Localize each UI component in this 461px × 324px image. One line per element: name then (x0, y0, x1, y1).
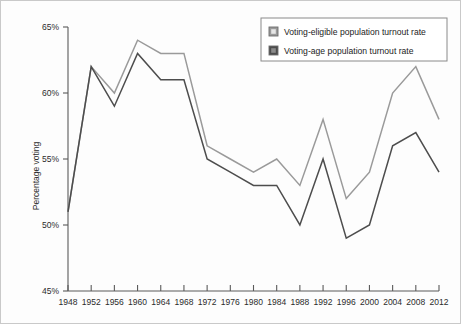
x-tick-label: 1972 (198, 297, 217, 307)
x-axis-tick-labels: 1948195219561960196419681972197619801984… (59, 297, 449, 307)
x-tick-label: 2000 (360, 297, 379, 307)
y-tick-label: 45% (42, 286, 59, 296)
x-tick-label: 1980 (244, 297, 263, 307)
x-tick-label: 1960 (128, 297, 147, 307)
legend-swatch-inner (271, 29, 276, 34)
x-tick-label: 2004 (383, 297, 402, 307)
x-tick-label: 1984 (267, 297, 286, 307)
x-tick-label: 1976 (221, 297, 240, 307)
x-tick-label: 1948 (59, 297, 78, 307)
y-tick-label: 65% (42, 22, 59, 32)
x-tick-label: 1996 (337, 297, 356, 307)
y-tick-label: 55% (42, 154, 59, 164)
series-line-voting-age (68, 53, 439, 238)
chart-legend: Voting-eligible population turnout rateV… (261, 18, 447, 61)
x-axis-ticks (68, 285, 439, 291)
y-axis-ticks (63, 27, 68, 291)
x-tick-label: 1956 (105, 297, 124, 307)
legend-swatch-inner (271, 48, 276, 53)
y-axis-title: Percentage voting (31, 141, 41, 210)
chart-figure: 45%50%55%60%65% 194819521956196019641968… (0, 0, 461, 324)
x-tick-label: 2012 (430, 297, 449, 307)
x-tick-label: 1992 (314, 297, 333, 307)
chart-axes (63, 27, 439, 291)
y-tick-label: 60% (42, 88, 59, 98)
legend-label: Voting-age population turnout rate (284, 46, 414, 56)
x-tick-label: 1964 (151, 297, 170, 307)
y-tick-label: 50% (42, 220, 59, 230)
line-chart: 45%50%55%60%65% 194819521956196019641968… (1, 1, 461, 324)
x-tick-label: 1952 (82, 297, 101, 307)
legend-label: Voting-eligible population turnout rate (284, 27, 426, 37)
x-tick-label: 1988 (290, 297, 309, 307)
y-axis-tick-labels: 45%50%55%60%65% (42, 22, 59, 296)
chart-series-group (68, 40, 439, 238)
x-tick-label: 2008 (406, 297, 425, 307)
x-tick-label: 1968 (174, 297, 193, 307)
